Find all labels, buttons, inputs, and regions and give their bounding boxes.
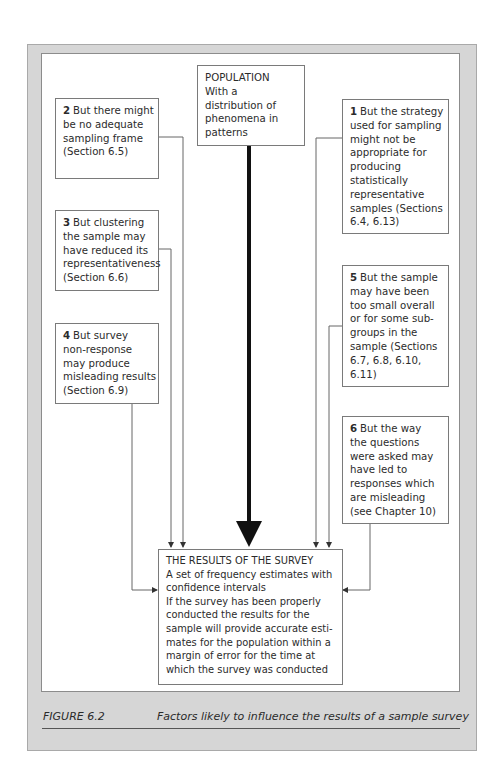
factor-number: 4 — [63, 330, 70, 341]
factor-text: were asked may — [350, 450, 443, 464]
factor-box-6: 6But the way the questions were asked ma… — [342, 416, 449, 524]
results-box: THE RESULTS OF THE SURVEY A set of frequ… — [158, 549, 343, 685]
factor-box-2: 2But there might be no adequate sampling… — [55, 98, 159, 179]
factor-text: might not be — [350, 133, 443, 147]
figure-caption: Factors likely to influence the results … — [157, 710, 469, 723]
factor-text: be no adequate — [63, 118, 153, 132]
factor-text: (Section 6.5) — [63, 145, 153, 159]
caption-divider — [42, 728, 460, 729]
factor-text: But survey — [73, 330, 128, 341]
factor-text: statistically — [350, 174, 443, 188]
factor-text: may have been — [350, 285, 443, 299]
population-text: phenomena in — [205, 112, 299, 126]
factor-number: 1 — [350, 106, 357, 117]
factor-box-1: 1But the strategy used for sampling migh… — [342, 99, 449, 234]
factor-text: or for some sub- — [350, 312, 443, 326]
results-text: sample will provide accurate esti- — [166, 622, 337, 636]
factor-text: have reduced its — [63, 244, 153, 258]
results-text: conducted the results for the — [166, 608, 337, 622]
factor-text: have led to — [350, 463, 443, 477]
results-text: A set of frequency estimates with — [166, 568, 337, 582]
factor-text: But the way — [360, 423, 421, 434]
factor-box-4: 4But survey non-response may produce mis… — [55, 323, 159, 404]
factor-text: sample (Sections — [350, 340, 443, 354]
factor-text: 6.4, 6.13) — [350, 215, 443, 229]
factor-box-5: 5But the sample may have been too small … — [342, 265, 449, 387]
factor-text: But clustering — [73, 217, 144, 228]
population-text: With a — [205, 85, 299, 99]
factor-text: too small overall — [350, 299, 443, 313]
factor-text: the sample may — [63, 230, 153, 244]
factor-text: producing — [350, 160, 443, 174]
factor-text: samples (Sections — [350, 202, 443, 216]
factor-text: (Section 6.6) — [63, 271, 153, 285]
factor-number: 5 — [350, 272, 357, 283]
results-text: confidence intervals — [166, 581, 337, 595]
population-text: distribution of — [205, 99, 299, 113]
factor-text: may produce — [63, 357, 153, 371]
factor-number: 3 — [63, 217, 70, 228]
factor-text: non-response — [63, 343, 153, 357]
factor-text: misleading results — [63, 370, 153, 384]
factor-number: 6 — [350, 423, 357, 434]
results-text: which the survey was conducted — [166, 663, 337, 677]
factor-text: 6.7, 6.8, 6.10, — [350, 354, 443, 368]
factor-text: But the strategy — [360, 106, 443, 117]
results-title: THE RESULTS OF THE SURVEY — [166, 554, 337, 568]
factor-text: representative — [350, 188, 443, 202]
factor-text: used for sampling — [350, 119, 443, 133]
factor-text: (Section 6.9) — [63, 384, 153, 398]
factor-box-3: 3But clustering the sample may have redu… — [55, 210, 159, 291]
factor-text: 6.11) — [350, 368, 443, 382]
main-arrow-head — [236, 521, 262, 547]
factor-text: groups in the — [350, 326, 443, 340]
factor-text: responses which — [350, 477, 443, 491]
factor-text: are misleading — [350, 491, 443, 505]
population-title: POPULATION — [205, 71, 299, 85]
results-text: If the survey has been properly — [166, 595, 337, 609]
results-text: mates for the population within a — [166, 636, 337, 650]
figure-number: FIGURE 6.2 — [43, 710, 105, 723]
factor-text: sampling frame — [63, 132, 153, 146]
factor-text: But there might — [73, 105, 154, 116]
population-box: POPULATION With a distribution of phenom… — [197, 65, 305, 146]
main-arrow-shaft — [247, 145, 251, 523]
results-text: margin of error for the time at — [166, 649, 337, 663]
factor-text: the questions — [350, 436, 443, 450]
factor-number: 2 — [63, 105, 70, 116]
factor-text: appropriate for — [350, 146, 443, 160]
factor-text: representativeness — [63, 257, 153, 271]
population-text: patterns — [205, 126, 299, 140]
factor-text: But the sample — [360, 272, 438, 283]
factor-text: (see Chapter 10) — [350, 505, 443, 519]
